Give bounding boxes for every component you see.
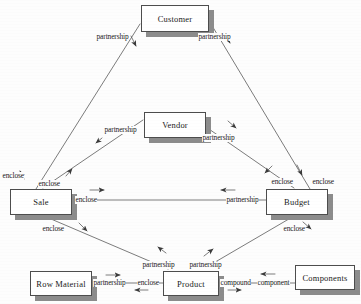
arrow-vendor-to-budget xyxy=(228,121,236,128)
edge-sale-customer xyxy=(36,24,140,189)
edge-label-sale-enclose-inner: enclose xyxy=(38,180,60,188)
entity-product[interactable]: Product xyxy=(163,271,219,296)
edge-label-cust-budget-partnership: partnership xyxy=(198,33,231,41)
edge-label-budget-enclose-lower: enclose xyxy=(283,225,305,233)
edge-label-vendor-sale-partnership: partnership xyxy=(104,126,137,134)
edge-label-rowmat-partnership: partnership xyxy=(93,279,126,287)
entity-vendor[interactable]: Vendor xyxy=(144,112,206,138)
edge-customer-budget xyxy=(211,24,310,189)
edge-label-vendor-budget-partnership: partnership xyxy=(202,134,235,142)
arrow-sale-to-product xyxy=(79,223,87,231)
edge-label-budget-enclose-outer: enclose xyxy=(312,178,334,186)
edge-label-sale-budget-partnership: partnership xyxy=(226,196,259,204)
entity-product-label: Product xyxy=(177,279,205,289)
entity-customer-label: Customer xyxy=(158,14,193,24)
entity-sale[interactable]: Sale xyxy=(10,189,72,215)
entity-components-label: Components xyxy=(303,273,348,283)
entity-row-material-label: Row Material xyxy=(36,279,85,289)
edge-label-rowmat-enclose: enclose xyxy=(137,279,159,287)
edge-label-sale-enclose-lower: enclose xyxy=(42,225,64,233)
entity-row-material[interactable]: Row Material xyxy=(30,271,92,296)
entity-budget-label: Budget xyxy=(284,197,310,207)
entity-customer[interactable]: Customer xyxy=(141,5,209,32)
er-diagram-canvas: Customer Vendor Sale Budget Row Material… xyxy=(0,0,361,304)
arrow-product-to-budget xyxy=(204,249,213,256)
arrow-product-to-sale xyxy=(158,247,166,253)
edge-layer xyxy=(0,0,361,304)
entity-sale-label: Sale xyxy=(33,197,48,207)
edge-label-sale-product-enclose-mid: enclose xyxy=(75,196,97,204)
edge-label-budget-enclose-inner: enclose xyxy=(271,178,293,186)
edge-label-components-component: component xyxy=(257,279,290,287)
arrow-budget-to-customer-down xyxy=(297,165,302,175)
arrow-customer-to-sale-down xyxy=(131,36,136,46)
edge-label-cust-sale-partnership: partnership xyxy=(96,33,129,41)
edge-label-product-partnership-left: partnership xyxy=(142,261,175,269)
entity-budget[interactable]: Budget xyxy=(266,189,328,215)
edge-label-product-partnership-right: partnership xyxy=(189,261,222,269)
entity-vendor-label: Vendor xyxy=(162,120,188,130)
edge-label-sale-enclose-outer: enclose xyxy=(2,172,24,180)
edge-label-product-compound: compound xyxy=(220,279,251,287)
entity-components[interactable]: Components xyxy=(295,265,355,290)
arrow-vendor-to-sale xyxy=(96,138,102,143)
